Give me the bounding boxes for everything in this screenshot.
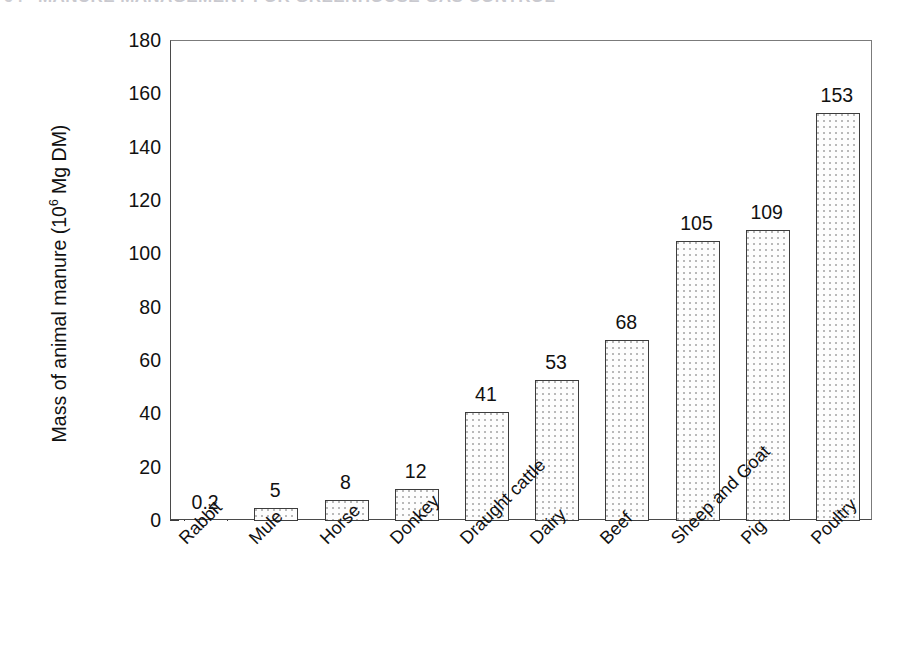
- y-axis-title-prefix: Mass of animal manure (10: [48, 206, 70, 442]
- y-axis-tick-label: 20: [101, 455, 161, 478]
- bar-value-label: 5: [270, 479, 281, 502]
- bar[interactable]: [535, 380, 579, 521]
- y-axis-tick-label: 120: [101, 189, 161, 212]
- bar-value-label: 68: [615, 311, 637, 334]
- y-axis-title-suffix: Mg DM): [48, 125, 70, 200]
- bar[interactable]: [676, 241, 720, 521]
- bar-chart-figure: Mass of animal manure (106 Mg DM) 020406…: [0, 0, 903, 667]
- bar-value-label: 153: [821, 84, 854, 107]
- y-axis-tick-label: 140: [101, 135, 161, 158]
- bar-value-label: 53: [545, 351, 567, 374]
- bar[interactable]: [605, 340, 649, 521]
- bar-value-label: 41: [475, 383, 497, 406]
- y-axis-tick-label: 60: [101, 349, 161, 372]
- y-axis-tick-label: 160: [101, 82, 161, 105]
- y-axis-tick-label: 0: [101, 509, 161, 532]
- y-axis-title: Mass of animal manure (106 Mg DM): [48, 69, 71, 499]
- bar-value-label: 12: [405, 460, 427, 483]
- y-axis-title-exponent: 6: [47, 199, 61, 206]
- y-axis-tick-label: 40: [101, 402, 161, 425]
- y-axis-tick-label: 180: [101, 29, 161, 52]
- bar-value-label: 109: [750, 201, 783, 224]
- bar-value-label: 8: [340, 471, 351, 494]
- bar[interactable]: [816, 113, 860, 521]
- bar-value-label: 105: [680, 212, 713, 235]
- y-axis-tick-label: 100: [101, 242, 161, 265]
- y-axis-major-tick: [170, 520, 179, 521]
- y-axis-tick-label: 80: [101, 295, 161, 318]
